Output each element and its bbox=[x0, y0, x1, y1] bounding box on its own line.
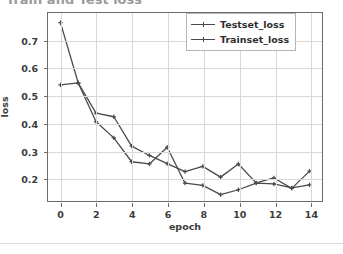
legend-label: Trainset_loss bbox=[220, 34, 289, 45]
x-axis-title: epoch bbox=[47, 221, 323, 232]
x-tick-label: 12 bbox=[269, 209, 282, 220]
legend-item-testset: Testset_loss bbox=[191, 18, 289, 31]
gridline-vertical bbox=[311, 13, 312, 201]
figure: loss epoch 0.20.30.40.50.60.702468101214… bbox=[0, 6, 343, 242]
x-tick bbox=[204, 203, 205, 207]
gridline-vertical bbox=[132, 13, 133, 201]
y-tick-label: 0.5 bbox=[21, 91, 38, 102]
x-tick-label: 0 bbox=[57, 209, 64, 220]
x-tick-label: 14 bbox=[305, 209, 318, 220]
y-tick bbox=[44, 179, 48, 180]
x-tick-label: 8 bbox=[201, 209, 208, 220]
x-tick-label: 2 bbox=[93, 209, 100, 220]
x-tick bbox=[311, 203, 312, 207]
x-tick bbox=[61, 203, 62, 207]
y-tick-label: 0.7 bbox=[21, 35, 38, 46]
y-tick bbox=[44, 96, 48, 97]
y-tick-label: 0.3 bbox=[21, 146, 38, 157]
data-point-marker bbox=[183, 169, 187, 173]
y-tick bbox=[44, 152, 48, 153]
y-tick-label: 0.4 bbox=[21, 118, 38, 129]
gridline-horizontal bbox=[48, 68, 322, 69]
y-tick bbox=[44, 41, 48, 42]
gridline-vertical bbox=[168, 13, 169, 201]
gridline-horizontal bbox=[48, 179, 322, 180]
line-marker-icon bbox=[191, 34, 215, 45]
bottom-divider bbox=[0, 243, 343, 244]
y-tick-label: 0.2 bbox=[21, 174, 38, 185]
legend-item-trainset: Trainset_loss bbox=[191, 33, 289, 46]
x-tick bbox=[240, 203, 241, 207]
y-tick bbox=[44, 124, 48, 125]
gridline-horizontal bbox=[48, 124, 322, 125]
x-tick-label: 4 bbox=[129, 209, 136, 220]
line-marker-icon bbox=[191, 19, 215, 30]
x-tick bbox=[276, 203, 277, 207]
chart-page: Train and Test loss loss epoch 0.20.30.4… bbox=[0, 0, 343, 254]
x-tick bbox=[96, 203, 97, 207]
gridline-horizontal bbox=[48, 152, 322, 153]
x-tick-label: 6 bbox=[165, 209, 172, 220]
y-tick-label: 0.6 bbox=[21, 63, 38, 74]
x-tick bbox=[168, 203, 169, 207]
y-tick bbox=[44, 68, 48, 69]
gridline-vertical bbox=[61, 13, 62, 201]
gridline-vertical bbox=[96, 13, 97, 201]
y-axis-title: loss bbox=[0, 96, 10, 117]
data-point-marker bbox=[183, 181, 187, 185]
x-tick bbox=[132, 203, 133, 207]
gridline-horizontal bbox=[48, 96, 322, 97]
legend-label: Testset_loss bbox=[220, 19, 284, 30]
legend: Testset_loss Trainset_loss bbox=[186, 13, 296, 51]
x-tick-label: 10 bbox=[233, 209, 246, 220]
